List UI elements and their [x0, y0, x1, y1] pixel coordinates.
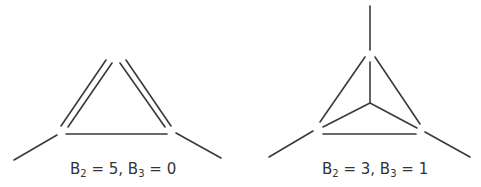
tail-left: [269, 131, 313, 157]
tail-left: [14, 135, 57, 160]
left-label: B2 = 5, B3 = 0: [70, 160, 176, 179]
edge-left-inner: [68, 63, 112, 127]
tail-right: [176, 133, 221, 158]
edge-left-outer: [61, 60, 106, 126]
right-label: B2 = 3, B3 = 1: [322, 160, 428, 179]
edge-center-right: [370, 103, 417, 128]
edge-apex-left: [320, 57, 365, 122]
tail-right: [425, 132, 470, 157]
left-graph: [14, 60, 221, 160]
edge-right-outer: [126, 60, 171, 126]
right-graph: [269, 6, 470, 157]
edge-right-inner: [120, 63, 165, 127]
edge-apex-right: [375, 57, 420, 124]
diagram-canvas: [0, 0, 481, 187]
